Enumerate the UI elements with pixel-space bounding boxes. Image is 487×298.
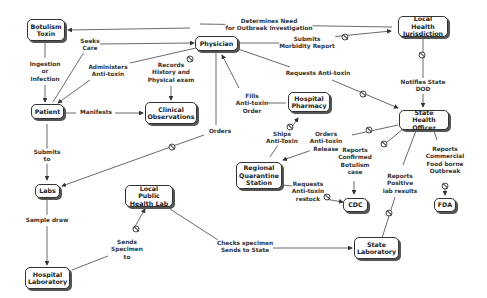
prohibited-icon [366, 127, 373, 134]
node-clinical-observations[interactable]: Clinical Observations [145, 102, 197, 124]
prohibited-icon [287, 124, 294, 131]
node-physician[interactable]: Physician [195, 36, 238, 51]
label-requests-antitoxin: Requests Anti-toxin [286, 70, 351, 77]
prohibited-icon [187, 56, 194, 63]
label-checks-specimen: Checks specimen Sends to State [217, 240, 273, 255]
label-reports-positive: Reports Positive lab results [383, 173, 418, 195]
label-reports-commercial: Reports Commercial Food borne Outbreak [426, 146, 464, 175]
node-hospital-pharmacy[interactable]: Hospital Pharmacy [288, 92, 330, 112]
node-state-health-officer[interactable]: State Health Officer [399, 110, 449, 130]
node-cdc[interactable]: CDC [343, 198, 368, 212]
prohibited-icon [169, 144, 176, 151]
label-requests-restock: Requests Anti-toxin restock [292, 181, 324, 203]
prohibited-icon [381, 141, 388, 148]
prohibited-icon [342, 34, 349, 41]
label-reports-confirmed: Reports Confirmed Botulism case [338, 147, 372, 176]
label-administers: Administers Anti-toxin [88, 64, 127, 79]
prohibited-icon [442, 183, 449, 190]
node-state-laboratory[interactable]: State Laboratory [354, 237, 399, 259]
concept-map-canvas: Botulism Toxin Physician Local Health Ju… [0, 0, 487, 298]
prohibited-icon [133, 226, 140, 233]
prohibited-icon [419, 52, 426, 59]
node-local-health-jurisdiction[interactable]: Local Health Jurisdiction [398, 16, 448, 37]
label-orders: Orders [209, 128, 231, 135]
label-sample-draw: Sample draw [26, 217, 69, 224]
label-manifests: Manifests [80, 109, 112, 116]
label-sends-specimen: Sends Specimen to [111, 239, 143, 261]
label-fills-order: Fills Anti-toxin Order [236, 93, 268, 115]
node-botulism-toxin[interactable]: Botulism Toxin [27, 19, 65, 41]
node-regional-quarantine-station[interactable]: Regional Quarantine Station [236, 162, 282, 189]
label-ships-antitoxin: Ships Anti-Toxin [266, 131, 298, 146]
label-notifies-state: Notifies State DOD [401, 79, 446, 94]
label-submits-to: Submits to [34, 149, 61, 164]
prohibited-icon [360, 91, 367, 98]
label-seeks-care: Seeks Care [80, 38, 99, 53]
node-fda[interactable]: FDA [434, 198, 456, 212]
node-local-public-health-lab[interactable]: Local Public Health Lab [125, 185, 173, 207]
prohibited-icon [324, 194, 331, 201]
node-hospital-laboratory[interactable]: Hospital Laboratory [25, 267, 70, 289]
node-labs[interactable]: Labs [35, 184, 60, 198]
label-determines-need: Determines Need for Outbreak Investigati… [225, 18, 312, 33]
label-submits-morbidity: Submits Morbidity Report [279, 36, 335, 51]
label-records-history: Records History and Physical exam [148, 62, 195, 84]
node-patient[interactable]: Patient [31, 104, 64, 119]
label-ingestion: Ingestion or Infection [30, 61, 61, 83]
prohibited-icon [386, 210, 393, 217]
